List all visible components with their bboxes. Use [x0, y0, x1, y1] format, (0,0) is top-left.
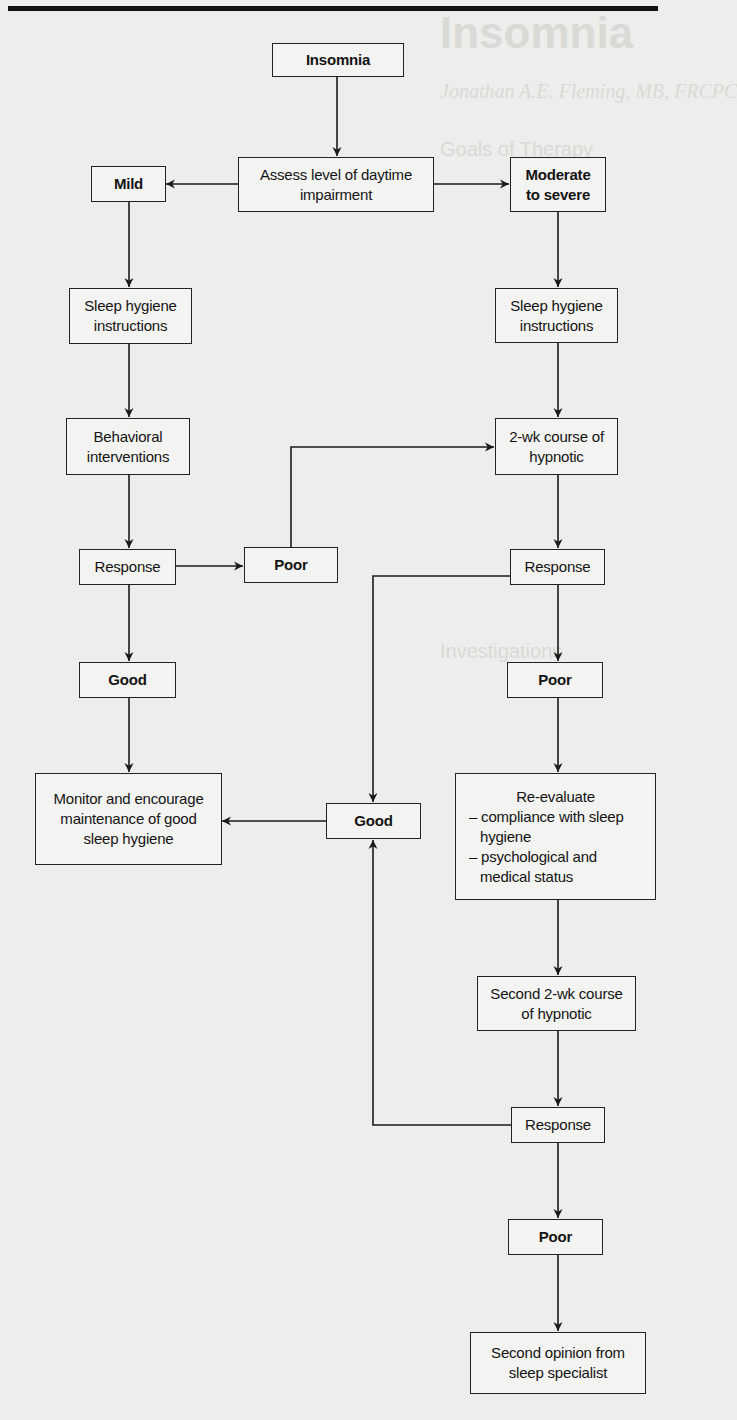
node-response-right: Response — [510, 549, 605, 585]
node-poor-bottom: Poor — [508, 1219, 603, 1255]
node-behavioral-interventions: Behavioral interventions — [66, 418, 190, 475]
node-insomnia: Insomnia — [272, 43, 404, 77]
node-monitor-sleep-hygiene: Monitor and encourage maintenance of goo… — [35, 773, 222, 865]
node-reevaluate: Re-evaluate – compliance with sleep hygi… — [455, 773, 656, 900]
node-response-bottom: Response — [511, 1107, 605, 1143]
node-poor-right: Poor — [507, 662, 603, 698]
reevaluate-item-compliance: – compliance with sleep hygiene — [466, 807, 645, 847]
node-mild: Mild — [91, 166, 166, 202]
node-second-opinion: Second opinion from sleep specialist — [470, 1332, 646, 1394]
node-sleep-hygiene-right: Sleep hygiene instructions — [495, 288, 618, 343]
node-2wk-hypnotic: 2-wk course of hypnotic — [495, 418, 618, 475]
reevaluate-title: Re-evaluate — [466, 787, 645, 807]
node-poor-mid: Poor — [244, 547, 338, 583]
node-assess-impairment: Assess level of daytime impairment — [238, 157, 434, 212]
node-response-left: Response — [79, 549, 176, 585]
node-moderate-to-severe: Moderate to severe — [510, 157, 606, 212]
node-good-mid: Good — [326, 803, 421, 839]
node-second-2wk-hypnotic: Second 2-wk course of hypnotic — [477, 976, 636, 1031]
node-good-left: Good — [79, 662, 176, 698]
node-sleep-hygiene-left: Sleep hygiene instructions — [69, 288, 192, 344]
reevaluate-item-psych-medical: – psychological and medical status — [466, 847, 645, 887]
